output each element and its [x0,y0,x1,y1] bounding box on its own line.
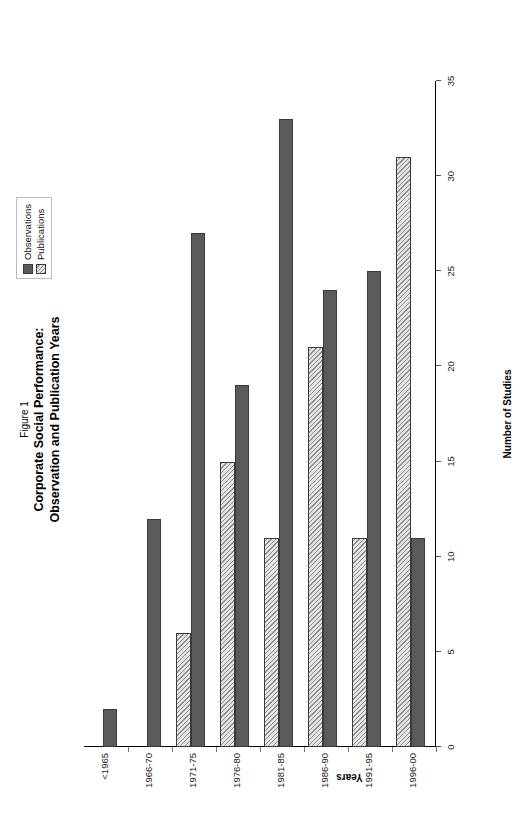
value-tick [436,175,441,176]
legend-swatch-publications-icon [36,264,46,274]
value-tick-label: 20 [445,361,456,372]
legend-item-publications: Publications [34,204,47,274]
category-label: 1971-75 [187,753,198,809]
value-tick [436,80,441,81]
category-tick [436,747,437,752]
bar-observations [323,290,338,747]
category-group: 1966-70 [128,81,172,747]
category-tick [392,747,393,752]
legend-swatch-observations-icon [23,264,33,274]
value-tick-label: 15 [445,456,456,467]
value-tick [436,270,441,271]
category-group: 1986-90 [304,81,348,747]
bar-observations [367,271,382,747]
category-tick [216,747,217,752]
category-label: 1981-85 [275,753,286,809]
chart-legend: Observations Publications [16,197,52,279]
bar-publications [220,462,235,747]
figure-title-line1: Corporate Social Performance: [31,0,47,839]
bar-observations [411,538,426,747]
bar-observations [235,385,250,747]
value-tick [436,651,441,652]
category-tick [304,747,305,752]
value-tick-label: 35 [445,76,456,87]
value-tick [436,365,441,366]
value-tick [436,461,441,462]
category-label: 1996-00 [407,753,418,809]
value-tick [436,556,441,557]
bar-observations [147,519,162,747]
bar-publications [352,538,367,747]
category-label: <1965 [99,753,110,809]
category-tick [128,747,129,752]
category-label: 1986-90 [319,753,330,809]
category-tick [260,747,261,752]
category-tick [348,747,349,752]
legend-item-observations: Observations [21,204,34,274]
category-group: 1996-00 [392,81,436,747]
category-group: 1976-80 [216,81,260,747]
category-group: 1981-85 [260,81,304,747]
value-tick-label: 25 [445,266,456,277]
bar-observations [191,233,206,747]
bar-publications [264,538,279,747]
value-axis-label: Number of Studies [502,81,513,747]
category-group: <1965 [84,81,128,747]
category-group: 1971-75 [172,81,216,747]
category-label: 1976-80 [231,753,242,809]
value-tick-label: 30 [445,171,456,182]
value-tick-label: 0 [445,744,456,749]
figure-title-line2: Observation and Publication Years [47,0,63,839]
category-label: 1991-95 [363,753,374,809]
category-group: 1991-95 [348,81,392,747]
bar-publications [176,633,191,747]
figure-number: Figure 1 [18,0,31,839]
legend-label-observations: Observations [22,204,33,260]
category-label: 1966-70 [143,753,154,809]
value-tick-label: 10 [445,551,456,562]
figure-title-block: Figure 1 Corporate Social Performance: O… [18,0,63,839]
category-tick [172,747,173,752]
bar-publications [396,157,411,747]
legend-label-publications: Publications [35,209,46,260]
plot-area: 05101520253035 <19651966-701971-751976-8… [84,81,436,747]
bar-observations [279,119,294,747]
value-tick-label: 5 [445,649,456,654]
bar-observations [103,709,118,747]
bar-publications [308,347,323,747]
category-axis-label: Years [336,772,363,783]
